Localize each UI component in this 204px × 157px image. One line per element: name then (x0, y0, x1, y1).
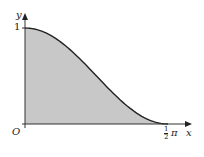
x-tick-den: 2 (164, 134, 168, 141)
origin-label: O (12, 126, 20, 137)
x-tick-pi: π (171, 127, 178, 138)
y-axis-label: y (16, 9, 22, 20)
y-axis-arrow-icon (22, 13, 28, 20)
x-axis-label: x (186, 127, 192, 138)
x-tick-label: 1 2 (164, 126, 168, 141)
y-tick-label: 1 (14, 21, 20, 32)
